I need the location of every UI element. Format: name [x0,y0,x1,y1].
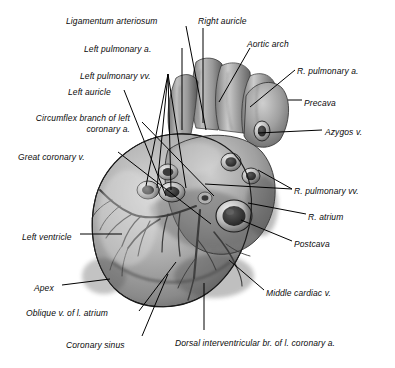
label-dorsal-interventricular-br-of-l-coronary-a: Dorsal interventricular br. of l. corona… [175,338,335,349]
label-precava: Precava [304,98,336,109]
anatomical-figure: Ligamentum arteriosumRight auricleLeft p… [0,0,395,368]
label-ligamentum-arteriosum: Ligamentum arteriosum [66,16,157,27]
stump-left-pulmonary-vein-b [159,182,185,202]
label-r-pulmonary-vv: R. pulmonary vv. [294,186,359,197]
label-right-auricle: Right auricle [198,16,247,27]
label-postcava: Postcava [294,239,330,250]
label-left-ventricle: Left ventricle [22,232,72,243]
label-azygos-v: Azygos v. [325,127,362,138]
label-r-atrium: R. atrium [308,212,343,223]
stump-r-pulmonary-vein-a [221,153,241,171]
label-left-pulmonary-vv: Left pulmonary vv. [80,71,151,82]
label-oblique-v-of-l-atrium: Oblique v. of l. atrium [26,308,108,319]
label-r-pulmonary-a: R. pulmonary a. [297,66,359,77]
label-left-pulmonary-a: Left pulmonary a. [84,44,151,55]
label-apex: Apex [34,283,54,294]
label-coronary-sinus: Coronary sinus [66,340,125,351]
label-circumflex-branch-of-left-coronary-a: Circumflex branch of left coronary a. [22,113,130,134]
label-left-auricle: Left auricle [68,87,111,98]
stump-coronary-sinus [198,192,212,204]
label-middle-cardiac-v: Middle cardiac v. [266,288,331,299]
label-aortic-arch: Aortic arch [247,39,289,50]
stump-azygos [254,121,270,141]
label-great-coronary-v: Great coronary v. [18,152,85,163]
